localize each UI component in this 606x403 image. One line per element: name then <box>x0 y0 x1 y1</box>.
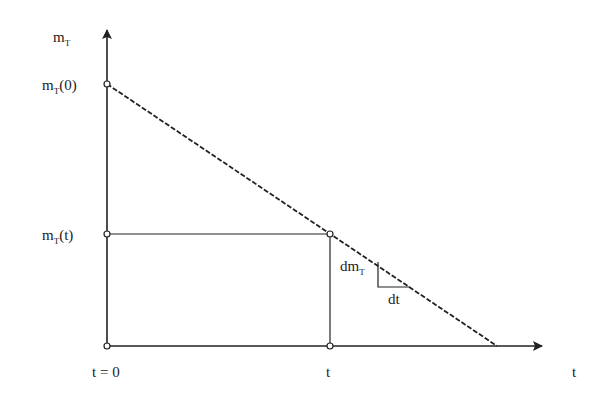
point-initial <box>104 81 110 87</box>
label-slope-dm: dmT <box>340 258 365 277</box>
point-origin <box>104 343 110 349</box>
point-current-y <box>104 231 110 237</box>
label-slope-dt: dt <box>388 291 401 307</box>
point-t <box>327 343 333 349</box>
x-axis-label: t <box>572 364 577 380</box>
label-t-zero: t = 0 <box>92 364 120 380</box>
y-axis-label: mT <box>53 29 71 48</box>
decay-line <box>107 84 497 346</box>
point-current <box>327 231 333 237</box>
label-initial-mass: mT(0) <box>42 77 77 96</box>
label-t-current: t <box>326 364 331 380</box>
mass-time-diagram: mT mT(0) mT(t) dmT dt t = 0 t t <box>0 0 606 403</box>
label-current-mass: mT(t) <box>42 227 73 246</box>
